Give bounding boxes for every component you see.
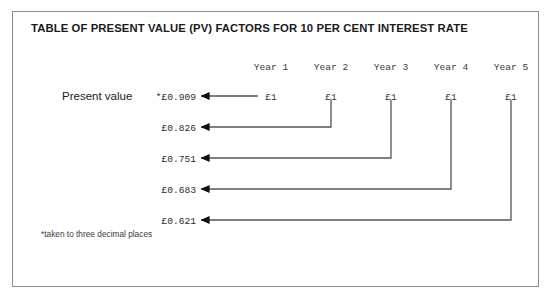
column-header-year-3: Year 3 — [361, 62, 421, 73]
figure-border — [12, 11, 539, 287]
pv-factors-figure: TABLE OF PRESENT VALUE (PV) FACTORS FOR … — [0, 0, 553, 301]
pv-factor-year-3: £0.751 — [86, 154, 196, 165]
pv-factor-year-1: *£0.909 — [86, 92, 196, 103]
column-header-year-4: Year 4 — [421, 62, 481, 73]
column-header-year-2: Year 2 — [301, 62, 361, 73]
footnote-decimal-places: *taken to three decimal places — [41, 229, 152, 239]
cash-flow-year-4: £1 — [431, 92, 471, 103]
pv-factor-year-2: £0.826 — [86, 123, 196, 134]
pv-factor-year-4: £0.683 — [86, 185, 196, 196]
column-header-year-1: Year 1 — [241, 62, 301, 73]
cash-flow-year-2: £1 — [311, 92, 351, 103]
figure-title: TABLE OF PRESENT VALUE (PV) FACTORS FOR … — [31, 22, 468, 34]
cash-flow-year-5: £1 — [491, 92, 531, 103]
pv-factor-year-5: £0.621 — [86, 216, 196, 227]
cash-flow-year-1: £1 — [251, 92, 291, 103]
column-header-year-5: Year 5 — [481, 62, 541, 73]
cash-flow-year-3: £1 — [371, 92, 411, 103]
